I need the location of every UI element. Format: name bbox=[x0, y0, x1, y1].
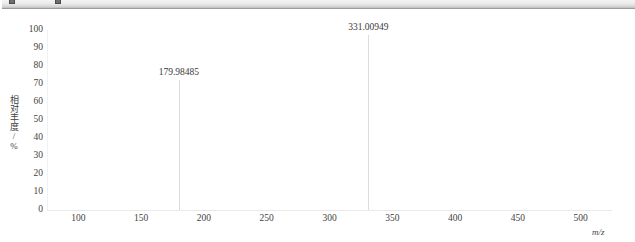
tab-stop-marker-icon[interactable] bbox=[55, 0, 61, 4]
y-axis-title: 相对丰度/% bbox=[9, 95, 19, 151]
y-axis-tick-label: 70 bbox=[9, 79, 43, 89]
peak-label: 179.98485 bbox=[159, 67, 199, 77]
x-axis-tick-label: 500 bbox=[573, 213, 587, 224]
x-axis-tick-label: 200 bbox=[197, 213, 211, 224]
y-axis-tick-label: 90 bbox=[9, 43, 43, 53]
x-axis-tick-label: 400 bbox=[448, 213, 462, 224]
spectrum-peak bbox=[368, 35, 369, 210]
y-axis-tick-label: 100 bbox=[9, 25, 43, 35]
spectrum-peak bbox=[179, 80, 180, 210]
y-axis-tick-label: 80 bbox=[9, 61, 43, 71]
x-axis-tick-labels: 100150200250300350400450500 bbox=[0, 213, 635, 229]
x-axis-tick-label: 300 bbox=[322, 213, 336, 224]
x-axis-tick-label: 100 bbox=[71, 213, 85, 224]
y-axis-tick-label: 20 bbox=[9, 169, 43, 179]
document-ruler-bar[interactable] bbox=[0, 0, 635, 9]
peak-label: 331.00949 bbox=[348, 22, 388, 32]
x-axis-tick-label: 350 bbox=[385, 213, 399, 224]
indent-marker-icon[interactable] bbox=[9, 0, 15, 4]
mass-spectrum-chart: 0102030405060708090100 相对丰度/% 1001502002… bbox=[0, 9, 635, 242]
x-axis-tick-label: 150 bbox=[134, 213, 148, 224]
x-axis-line bbox=[47, 210, 612, 211]
y-axis-tick-label: 10 bbox=[9, 187, 43, 197]
y-axis-tick-label: 30 bbox=[9, 151, 43, 161]
x-axis-tick-label: 450 bbox=[511, 213, 525, 224]
x-axis-tick-label: 250 bbox=[260, 213, 274, 224]
ruler-left-edge bbox=[0, 0, 2, 9]
plot-area bbox=[47, 30, 612, 210]
x-axis-title: m/z bbox=[592, 227, 605, 237]
